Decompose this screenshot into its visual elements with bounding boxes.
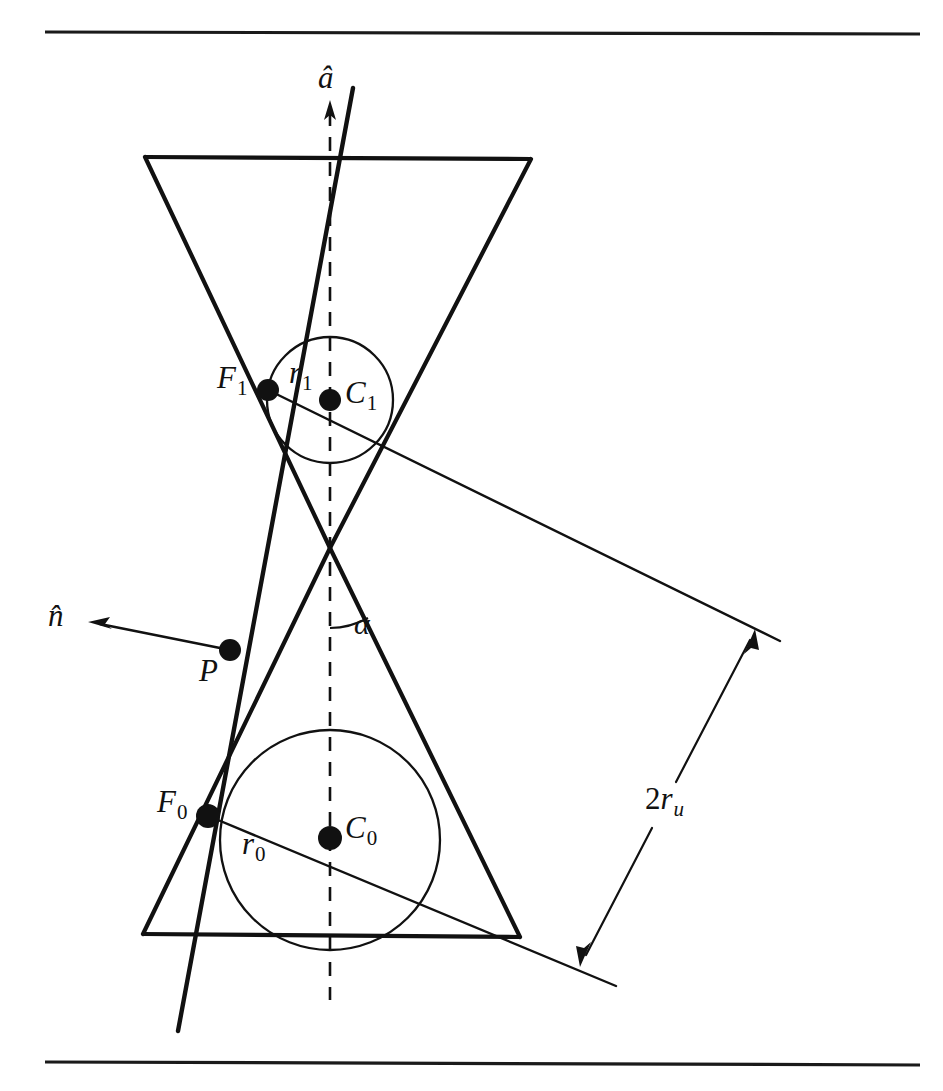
focus-f1-subscript: 1 bbox=[237, 376, 248, 400]
dimension-arrow-upper-shaft bbox=[676, 640, 750, 782]
normal-vector-label: n̂ bbox=[48, 600, 64, 631]
figure-drawing bbox=[0, 0, 943, 1091]
cone-lower-base-edge bbox=[143, 934, 520, 937]
lower-conic-chord-line bbox=[206, 815, 616, 986]
point-p-label: P bbox=[199, 655, 218, 686]
normal-vector-line bbox=[100, 624, 230, 650]
cone-lower-left-edge bbox=[143, 548, 330, 934]
alpha-angle-label: α bbox=[354, 609, 370, 639]
point-f1-dot bbox=[257, 379, 279, 401]
focus-f1-label: F1 bbox=[217, 362, 247, 399]
axis-label: â bbox=[318, 62, 334, 93]
dimension-arrow-lower-head-icon bbox=[576, 942, 591, 967]
point-c0-dot bbox=[318, 826, 342, 850]
center-c0-label: C0 bbox=[345, 812, 377, 849]
diameter-2ru-subscript: u bbox=[674, 797, 685, 821]
bottom-rule bbox=[45, 1062, 920, 1065]
upper-conic-chord-line bbox=[266, 389, 780, 641]
radius-r1-label: r1 bbox=[289, 357, 313, 394]
point-p-dot bbox=[219, 639, 241, 661]
focus-f0-label: F0 bbox=[157, 786, 187, 823]
figure-page: â n̂ P F1 C1 r1 F0 C0 r0 α 2ru bbox=[0, 0, 943, 1091]
cone-upper-right-edge bbox=[330, 159, 531, 548]
center-c1-subscript: 1 bbox=[367, 391, 378, 415]
point-c1-dot bbox=[319, 389, 341, 411]
center-c1-label: C1 bbox=[345, 377, 377, 414]
radius-r1-subscript: 1 bbox=[302, 371, 313, 395]
dimension-arrow-upper-head-icon bbox=[744, 629, 759, 654]
radius-r0-label: r0 bbox=[242, 828, 266, 865]
point-f0-dot bbox=[196, 804, 220, 828]
dimension-arrow-lower-shaft bbox=[586, 828, 652, 955]
center-c0-subscript: 0 bbox=[367, 826, 378, 850]
top-rule bbox=[45, 32, 920, 34]
focus-f0-subscript: 0 bbox=[177, 800, 188, 824]
radius-r0-subscript: 0 bbox=[255, 842, 266, 866]
diameter-2ru-prefix: 2 bbox=[645, 781, 661, 816]
normal-vector-arrowhead-icon bbox=[88, 617, 112, 629]
diameter-2ru-label: 2ru bbox=[645, 783, 684, 820]
